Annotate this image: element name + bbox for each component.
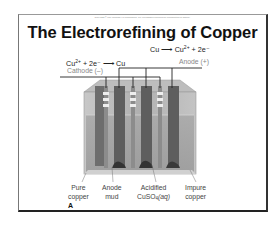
anode-half-reaction: Cu ⟶ Cu2+ + 2e⁻ bbox=[150, 44, 210, 54]
label-pure-copper: Purecopper bbox=[68, 183, 89, 201]
impure-copper-anode bbox=[95, 86, 104, 166]
panel-letter: A bbox=[68, 202, 73, 209]
impure-copper-anode bbox=[141, 86, 152, 168]
anode-label: Anode (+) bbox=[179, 58, 209, 65]
label-impure-copper: Impurecopper bbox=[185, 183, 206, 201]
label-anode-mud: Anodemud bbox=[102, 183, 122, 201]
label-acidified-cuso4: AcidifiedCuSO4(aq) bbox=[137, 183, 170, 203]
cathode-label: Cathode (–) bbox=[67, 67, 103, 74]
impure-copper-anode bbox=[114, 86, 125, 168]
impure-copper-anode bbox=[168, 86, 179, 168]
